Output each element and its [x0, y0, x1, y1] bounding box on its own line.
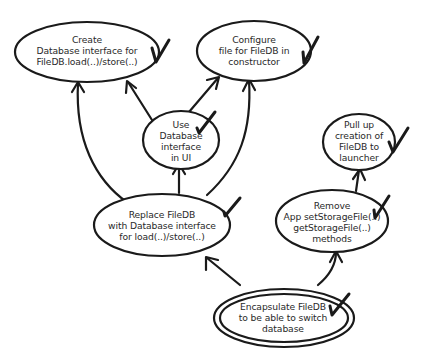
node-pull-up-creation: Pull up creation of FileDB to launcher: [326, 119, 392, 163]
checkmark-icon: [224, 198, 240, 216]
edge-replace-to-create: [78, 83, 128, 203]
node-create-db-interface: Create Database interface for FileDB.loa…: [20, 34, 154, 67]
node-encapsulate-filedb: Encapsulate FileDB to be able to switch …: [222, 301, 344, 334]
node-configure-file: Configure file for FileDB in constructor: [202, 34, 306, 67]
node-remove-app-methods: Remove App setStorageFile(..) getStorage…: [277, 200, 387, 244]
node-replace-filedb: Replace FileDB with Database interface f…: [98, 209, 226, 242]
node-use-db-interface: Use Database interface in UI: [148, 119, 214, 163]
edge-encapsulate-to-replace: [207, 258, 240, 285]
edge-use-to-create: [128, 82, 152, 120]
edge-use-to-configure: [189, 78, 218, 112]
mikado-diagram: Create Database interface for FileDB.loa…: [0, 0, 427, 359]
